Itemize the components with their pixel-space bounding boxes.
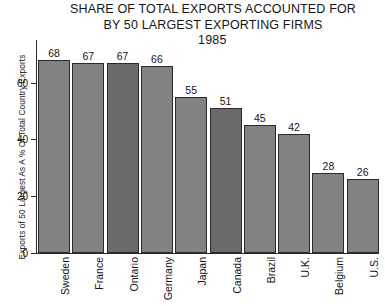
bar-canada: 51: [210, 108, 242, 253]
chart-title-line-1: SHARE OF TOTAL EXPORTS ACCOUNTED FOR: [48, 2, 378, 17]
x-axis-line: [36, 253, 379, 254]
y-tick-label: 20: [17, 191, 28, 202]
bar-japan: 55: [175, 97, 207, 253]
bar-sweden: 68: [38, 60, 70, 253]
x-category-label: France: [93, 257, 105, 290]
y-tick-mark: [31, 253, 36, 254]
bar-value-label: 55: [185, 84, 197, 96]
x-category-label: U.S.: [368, 257, 380, 277]
bar-value-label: 67: [82, 50, 94, 62]
y-tick-mark: [31, 83, 36, 84]
bar-value-label: 28: [323, 160, 335, 172]
bar-u-s: 26: [347, 179, 379, 253]
y-tick-label: 40: [17, 134, 28, 145]
bar-france: 67: [72, 63, 104, 253]
bar-value-label: 45: [254, 112, 266, 124]
x-category-label: U.K.: [299, 257, 311, 277]
bar-value-label: 66: [151, 53, 163, 65]
x-category-label: Ontario: [128, 257, 140, 291]
y-tick-label: 0: [22, 248, 28, 259]
x-category-label: Brazil: [265, 257, 277, 283]
bar-value-label: 26: [357, 166, 369, 178]
y-tick-mark: [31, 196, 36, 197]
bar-value-label: 68: [48, 47, 60, 59]
y-tick-label: 60: [17, 77, 28, 88]
chart-screenshot: SHARE OF TOTAL EXPORTS ACCOUNTED FOR BY …: [0, 0, 385, 306]
bar-value-label: 67: [117, 50, 129, 62]
bar-belgium: 28: [312, 173, 344, 253]
bar-germany: 66: [141, 66, 173, 253]
chart-title-line-2: BY 50 LARGEST EXPORTING FIRMS: [48, 18, 378, 33]
x-category-label: Germany: [162, 257, 174, 300]
chart-title: SHARE OF TOTAL EXPORTS ACCOUNTED FOR BY …: [48, 2, 378, 33]
plot-area: 0204060 68Sweden67France67Ontario66Germa…: [36, 40, 379, 254]
bar-u-k: 42: [278, 134, 310, 253]
y-axis-line: [36, 40, 37, 254]
x-category-label: Belgium: [333, 257, 345, 295]
y-tick-mark: [31, 139, 36, 140]
x-category-label: Sweden: [59, 257, 71, 295]
bar-value-label: 51: [220, 95, 232, 107]
x-category-label: Canada: [231, 257, 243, 294]
bar-value-label: 42: [288, 121, 300, 133]
x-category-label: Japan: [196, 257, 208, 286]
bar-ontario: 67: [107, 63, 139, 253]
bar-brazil: 45: [244, 125, 276, 253]
